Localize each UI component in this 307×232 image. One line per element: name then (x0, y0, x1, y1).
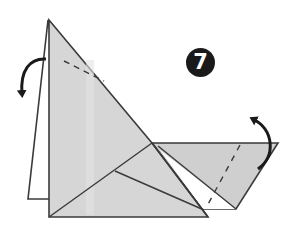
diagram-svg (0, 0, 307, 232)
left-back-flap (28, 20, 50, 199)
paper-texture (86, 60, 94, 215)
origami-diagram: 7 (0, 0, 307, 232)
main-triangle (49, 20, 208, 217)
step-number-badge: 7 (186, 48, 215, 77)
